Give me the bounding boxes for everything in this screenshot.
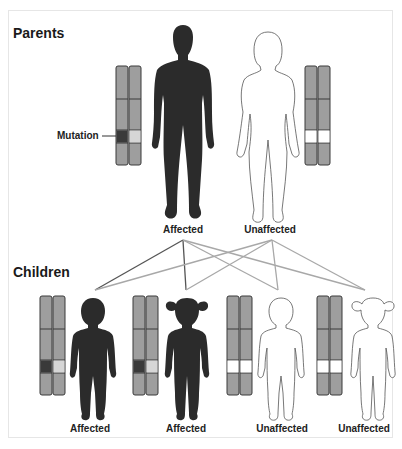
child-2-chromosome-pair [133, 296, 158, 395]
child-1-status-label: Affected [70, 423, 110, 434]
inheritance-lines [95, 240, 365, 290]
child-4-status-label: Unaffected [338, 423, 390, 434]
father-figure-affected [152, 25, 214, 219]
mother-figure-unaffected [237, 32, 299, 222]
child-3-figure-unaffected [258, 298, 304, 420]
mother-chromosome-pair [305, 66, 330, 165]
father-chromosome-pair [116, 66, 141, 165]
child-1-chromosome-pair [40, 296, 65, 395]
child-3-chromosome-pair [227, 296, 252, 395]
child-2-status-label: Affected [166, 423, 206, 434]
child-4-figure-unaffected [351, 298, 395, 420]
mutation-label: Mutation [57, 130, 99, 141]
child-1-figure-affected [70, 298, 116, 420]
father-status-label: Affected [163, 224, 203, 235]
child-3-status-label: Unaffected [256, 423, 308, 434]
child-4-chromosome-pair [317, 296, 342, 395]
child-2-figure-affected [165, 298, 209, 420]
mother-status-label: Unaffected [244, 224, 296, 235]
